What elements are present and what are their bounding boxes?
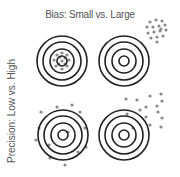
shot-dot	[124, 97, 127, 100]
shot-dot	[160, 99, 163, 102]
target-ring	[51, 123, 75, 147]
shot-dot	[148, 123, 151, 126]
shot-dot	[67, 58, 70, 61]
target-ring	[38, 110, 88, 160]
shot-dot	[145, 25, 148, 28]
shot-dot	[164, 28, 167, 31]
shot-dot	[55, 53, 58, 56]
shot-dot	[63, 163, 66, 166]
shot-dot	[148, 20, 151, 23]
shot-dot	[39, 110, 42, 113]
shot-cluster	[145, 18, 167, 43]
shot-dot	[156, 110, 159, 113]
shot-dot	[60, 67, 63, 70]
shot-dot	[55, 105, 58, 108]
target-ring	[119, 56, 129, 66]
target-ring	[99, 110, 149, 160]
shot-dot	[65, 53, 68, 56]
shot-dot	[155, 104, 158, 107]
target-ring	[119, 130, 129, 140]
shot-dot	[60, 51, 63, 54]
shot-dot	[163, 23, 166, 26]
shot-dot	[149, 36, 152, 39]
target-large-bias-high-precision	[99, 36, 149, 86]
target-ring	[58, 130, 68, 140]
shot-dot	[144, 105, 147, 108]
target-ring	[112, 49, 136, 73]
targets-diagram	[0, 0, 180, 177]
shot-dot	[151, 25, 154, 28]
shot-dot	[60, 59, 63, 62]
shot-dot	[138, 108, 141, 111]
shot-dot	[161, 34, 164, 37]
shot-dot	[154, 18, 157, 21]
shot-dot	[52, 58, 55, 61]
shot-dot	[70, 103, 73, 106]
shot-dot	[78, 110, 81, 113]
target-small-bias-low-precision	[38, 110, 88, 160]
shot-dot	[155, 40, 158, 43]
target-ring	[44, 116, 82, 154]
shot-dot	[146, 31, 149, 34]
target-ring	[105, 42, 143, 80]
target-ring	[99, 36, 149, 86]
shot-dot	[144, 115, 147, 118]
shot-dot	[135, 98, 138, 101]
shot-dot	[160, 116, 163, 119]
target-large-bias-low-precision	[99, 110, 149, 160]
shot-dot	[152, 30, 155, 33]
shot-dot	[155, 35, 158, 38]
target-ring	[105, 116, 143, 154]
shot-dot	[125, 112, 128, 115]
shot-cluster	[52, 51, 70, 70]
shot-dot	[54, 64, 57, 67]
target-ring	[112, 123, 136, 147]
shot-cluster	[34, 103, 87, 166]
shot-dot	[34, 138, 37, 141]
shot-dot	[157, 24, 160, 27]
shot-dot	[160, 19, 163, 22]
shot-dot	[159, 92, 162, 95]
shot-dot	[159, 125, 162, 128]
shot-dot	[148, 94, 151, 97]
shot-dot	[159, 27, 162, 30]
